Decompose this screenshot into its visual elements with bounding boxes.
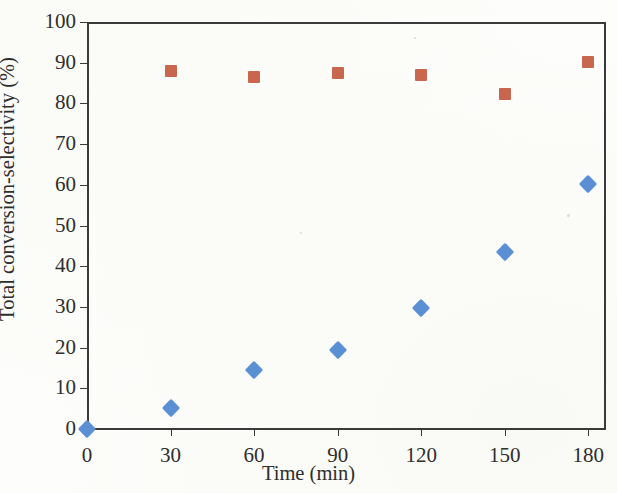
y-tick-label: 40 xyxy=(55,255,76,276)
y-tick-label: 90 xyxy=(55,52,76,73)
chart-figure: Total conversion-selectivity (%) 0102030… xyxy=(0,0,617,493)
data-point-diamond xyxy=(579,175,597,193)
y-tick xyxy=(80,185,87,186)
data-point-diamond xyxy=(412,299,430,317)
data-point-square xyxy=(415,69,427,81)
x-axis-line xyxy=(87,428,606,430)
y-tick-label: 50 xyxy=(55,215,76,236)
y-tick-label: 20 xyxy=(55,337,76,358)
data-point-diamond xyxy=(161,399,179,417)
plot-frame-right xyxy=(604,22,606,430)
y-tick xyxy=(80,348,87,349)
x-tick xyxy=(254,429,255,436)
data-point-square xyxy=(165,65,177,77)
y-tick-label: 30 xyxy=(55,296,76,317)
data-point-diamond xyxy=(245,361,263,379)
x-tick xyxy=(171,429,172,436)
y-tick xyxy=(80,144,87,145)
y-axis-line xyxy=(87,22,89,430)
x-axis-title: Time (min) xyxy=(0,462,617,485)
data-point-diamond xyxy=(496,243,514,261)
y-tick xyxy=(80,266,87,267)
x-tick xyxy=(588,429,589,436)
y-tick xyxy=(80,22,87,23)
x-tick xyxy=(338,429,339,436)
y-tick xyxy=(80,63,87,64)
data-point-square xyxy=(499,88,511,100)
y-tick xyxy=(80,226,87,227)
y-tick-label: 80 xyxy=(55,92,76,113)
y-tick xyxy=(80,307,87,308)
y-tick xyxy=(80,388,87,389)
y-tick-label: 10 xyxy=(55,377,76,398)
x-tick xyxy=(505,429,506,436)
y-tick xyxy=(80,103,87,104)
data-point-diamond xyxy=(78,420,96,438)
y-tick-label: 70 xyxy=(55,133,76,154)
data-point-square xyxy=(248,71,260,83)
x-tick xyxy=(421,429,422,436)
data-point-square xyxy=(332,67,344,79)
y-axis-title: Total conversion-selectivity (%) xyxy=(0,0,26,399)
plot-frame-top xyxy=(87,22,606,24)
y-tick-label: 100 xyxy=(45,11,77,32)
data-point-square xyxy=(582,56,594,68)
y-tick-label: 60 xyxy=(55,174,76,195)
y-tick-label: 0 xyxy=(66,418,77,439)
plot-area xyxy=(87,22,605,429)
data-point-diamond xyxy=(328,341,346,359)
